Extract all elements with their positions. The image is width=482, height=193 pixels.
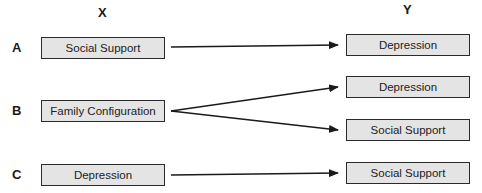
row-label-a: A xyxy=(12,40,21,55)
arrow-c xyxy=(171,173,338,175)
column-header-y: Y xyxy=(403,2,412,17)
arrow-b-top xyxy=(171,87,338,111)
y-box-depression-a: Depression xyxy=(346,34,470,56)
y-box-social-support-c: Social Support xyxy=(346,162,470,184)
x-box-depression: Depression xyxy=(41,164,165,186)
column-header-x: X xyxy=(98,5,107,20)
row-label-b: B xyxy=(12,103,21,118)
x-box-social-support: Social Support xyxy=(41,37,165,59)
y-box-social-support-b: Social Support xyxy=(346,119,470,141)
y-box-depression-b: Depression xyxy=(346,76,470,98)
arrow-b-bottom xyxy=(171,111,338,130)
row-label-c: C xyxy=(12,167,21,182)
arrow-a xyxy=(171,45,338,47)
x-box-family-configuration: Family Configuration xyxy=(41,100,165,122)
